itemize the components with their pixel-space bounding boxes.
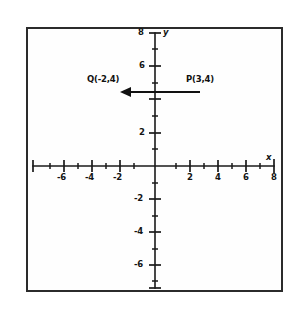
y-axis-label: y xyxy=(163,27,169,37)
point-label-q: Q(-2,4) xyxy=(87,74,119,84)
x-tick-label-4: 4 xyxy=(215,172,221,182)
x-tick-label--6: -6 xyxy=(57,172,66,182)
y-tick-label-2: 2 xyxy=(139,127,145,137)
y-tick-label-6: 6 xyxy=(139,60,145,70)
vector-p-to-q xyxy=(120,87,200,97)
point-label-p: P(3,4) xyxy=(186,74,214,84)
axes-canvas xyxy=(0,0,297,310)
y-tick-label-8: 8 xyxy=(138,27,144,37)
x-tick-label-8: 8 xyxy=(271,172,277,182)
x-axis-label: x xyxy=(266,152,271,162)
x-tick-label-6: 6 xyxy=(243,172,249,182)
x-tick-label--2: -2 xyxy=(113,172,122,182)
y-tick-label--2: -2 xyxy=(134,193,143,203)
coordinate-plane-figure: -6 -4 -2 2 4 6 8 8 6 2 -2 -4 -6 y x Q(-2… xyxy=(0,0,297,310)
x-tick-label--4: -4 xyxy=(85,172,94,182)
x-tick-label-2: 2 xyxy=(187,172,193,182)
y-tick-label--6: -6 xyxy=(134,259,143,269)
y-tick-label--4: -4 xyxy=(134,226,143,236)
